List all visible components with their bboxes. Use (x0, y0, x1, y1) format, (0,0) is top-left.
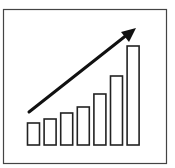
bar-7 (127, 46, 139, 145)
chart-svg (0, 0, 175, 168)
bar-6 (111, 76, 123, 145)
bars-group (28, 46, 140, 145)
bar-2 (44, 119, 56, 145)
bar-3 (61, 113, 73, 145)
bar-4 (77, 107, 89, 145)
bar-1 (28, 123, 40, 145)
bar-5 (94, 94, 106, 145)
